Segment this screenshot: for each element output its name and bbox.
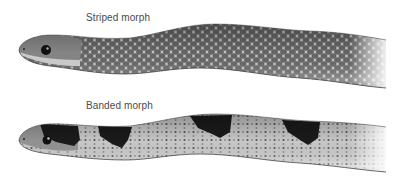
snake-illustrations <box>0 0 406 185</box>
snake-morph-figure: Striped morph Banded morph <box>0 0 406 185</box>
banded-morph-snake <box>0 110 400 180</box>
eye-icon <box>43 136 52 145</box>
striped-morph-snake <box>0 20 400 95</box>
eye-icon <box>41 45 51 55</box>
